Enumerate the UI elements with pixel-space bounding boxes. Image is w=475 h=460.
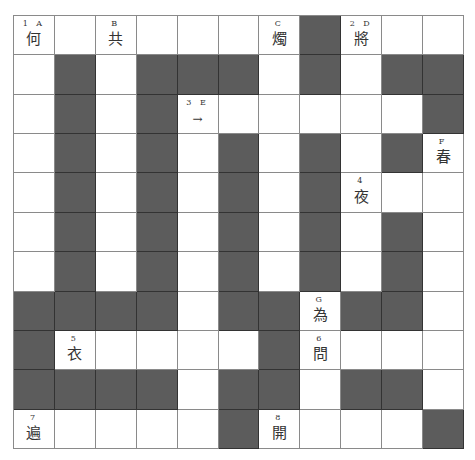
answer-cell[interactable]: [423, 16, 464, 55]
answer-cell[interactable]: [300, 410, 341, 449]
answer-cell[interactable]: 3 E→: [178, 95, 219, 134]
answer-cell[interactable]: [382, 331, 423, 370]
block-cell: [341, 292, 382, 331]
answer-cell[interactable]: [96, 173, 137, 212]
answer-cell[interactable]: [14, 95, 55, 134]
answer-cell[interactable]: [341, 331, 382, 370]
block-cell: [137, 95, 178, 134]
answer-cell[interactable]: [137, 410, 178, 449]
answer-cell[interactable]: [96, 95, 137, 134]
answer-cell[interactable]: [341, 55, 382, 94]
answer-cell[interactable]: [96, 331, 137, 370]
answer-cell[interactable]: [55, 16, 96, 55]
answer-cell[interactable]: [300, 95, 341, 134]
answer-cell[interactable]: [178, 173, 219, 212]
answer-cell[interactable]: B共: [96, 16, 137, 55]
block-cell: [55, 95, 96, 134]
block-cell: [219, 252, 260, 291]
answer-cell[interactable]: [382, 95, 423, 134]
answer-cell[interactable]: [219, 95, 260, 134]
clue-number-label: 6: [300, 335, 340, 343]
answer-cell[interactable]: 5衣: [55, 331, 96, 370]
answer-cell[interactable]: [178, 252, 219, 291]
answer-cell[interactable]: [423, 213, 464, 252]
block-cell: [300, 173, 341, 212]
answer-cell[interactable]: [382, 410, 423, 449]
answer-cell[interactable]: [341, 134, 382, 173]
answer-cell[interactable]: [423, 331, 464, 370]
block-cell: [259, 331, 300, 370]
answer-cell[interactable]: [219, 16, 260, 55]
block-cell: [14, 370, 55, 409]
cell-character: 共: [108, 31, 123, 47]
answer-cell[interactable]: [341, 410, 382, 449]
answer-cell[interactable]: 7遍: [14, 410, 55, 449]
answer-cell[interactable]: [178, 370, 219, 409]
answer-cell[interactable]: F春: [423, 134, 464, 173]
answer-cell[interactable]: [137, 331, 178, 370]
answer-cell[interactable]: [14, 213, 55, 252]
block-cell: [259, 292, 300, 331]
block-cell: [55, 370, 96, 409]
block-cell: [219, 292, 260, 331]
answer-cell[interactable]: [219, 331, 260, 370]
answer-cell[interactable]: [178, 134, 219, 173]
answer-cell[interactable]: [178, 16, 219, 55]
answer-cell[interactable]: [259, 252, 300, 291]
cell-character: 遍: [26, 425, 41, 441]
answer-cell[interactable]: [96, 134, 137, 173]
answer-cell[interactable]: [382, 173, 423, 212]
answer-cell[interactable]: [14, 252, 55, 291]
block-cell: [423, 55, 464, 94]
clue-number-label: 5: [55, 335, 95, 343]
block-cell: [382, 370, 423, 409]
answer-cell[interactable]: [14, 55, 55, 94]
answer-cell[interactable]: [423, 252, 464, 291]
cell-character: 為: [313, 307, 328, 323]
answer-cell[interactable]: [341, 213, 382, 252]
answer-cell[interactable]: [96, 410, 137, 449]
answer-cell[interactable]: 8開: [259, 410, 300, 449]
block-cell: [55, 173, 96, 212]
answer-cell[interactable]: [259, 134, 300, 173]
answer-cell[interactable]: [259, 173, 300, 212]
answer-cell[interactable]: [178, 331, 219, 370]
answer-cell[interactable]: [55, 410, 96, 449]
answer-cell[interactable]: [423, 370, 464, 409]
answer-cell[interactable]: [178, 213, 219, 252]
answer-cell[interactable]: [96, 55, 137, 94]
answer-cell[interactable]: 1 A何: [14, 16, 55, 55]
block-cell: [55, 134, 96, 173]
answer-cell[interactable]: [178, 292, 219, 331]
answer-cell[interactable]: [14, 173, 55, 212]
cell-character: 問: [313, 346, 328, 362]
answer-cell[interactable]: [178, 410, 219, 449]
answer-cell[interactable]: [300, 370, 341, 409]
block-cell: [382, 213, 423, 252]
clue-number-label: 8: [259, 414, 299, 422]
answer-cell[interactable]: G為: [300, 292, 341, 331]
answer-cell[interactable]: [14, 134, 55, 173]
clue-number-label: 7: [14, 414, 54, 422]
answer-cell[interactable]: [259, 213, 300, 252]
answer-cell[interactable]: 2 D將: [341, 16, 382, 55]
answer-cell[interactable]: [259, 55, 300, 94]
block-cell: [178, 55, 219, 94]
block-cell: [300, 252, 341, 291]
answer-cell[interactable]: [137, 16, 178, 55]
answer-cell[interactable]: [96, 213, 137, 252]
answer-cell[interactable]: 4夜: [341, 173, 382, 212]
block-cell: [219, 173, 260, 212]
answer-cell[interactable]: [382, 16, 423, 55]
block-cell: [96, 370, 137, 409]
answer-cell[interactable]: 6問: [300, 331, 341, 370]
answer-cell[interactable]: [423, 173, 464, 212]
cell-character: 夜: [354, 189, 369, 205]
block-cell: [382, 292, 423, 331]
answer-cell[interactable]: [341, 252, 382, 291]
answer-cell[interactable]: [259, 95, 300, 134]
answer-cell[interactable]: [423, 292, 464, 331]
answer-cell[interactable]: [341, 95, 382, 134]
answer-cell[interactable]: C燭: [259, 16, 300, 55]
answer-cell[interactable]: [96, 252, 137, 291]
